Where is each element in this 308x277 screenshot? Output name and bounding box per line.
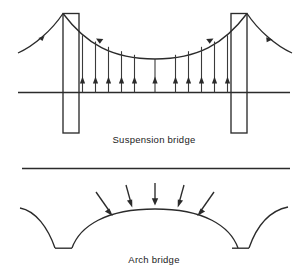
suspension-tower-left (63, 14, 79, 134)
arch-bridge-caption: Arch bridge (0, 254, 308, 265)
main-cable-left-arrowhead (96, 39, 103, 44)
hanger-arrowhead (173, 77, 178, 84)
arch-load-arrow-line (96, 192, 110, 212)
arch-load-arrowhead (152, 198, 158, 205)
suspension-bridge-caption: Suspension bridge (0, 134, 308, 145)
hanger-arrowhead (152, 77, 157, 84)
arch-load-arrowhead (197, 209, 205, 217)
suspension-bridge-panel (18, 14, 292, 134)
arch-load-arrow-line (200, 192, 214, 212)
hanger-arrowhead (225, 77, 230, 84)
hanger-arrowhead (199, 77, 204, 84)
arch-load-arrow-group (96, 183, 214, 216)
arch-main-span (72, 209, 238, 248)
bridge-diagram-figure: Suspension bridge Arch bridge (0, 0, 308, 277)
hanger-arrowhead (119, 77, 124, 84)
right-anchor-cable (247, 14, 292, 54)
hanger-arrowhead (93, 77, 98, 84)
arch-load-arrowhead (127, 200, 132, 208)
main-cable-right-arrowhead (206, 39, 213, 44)
suspension-tower-right (231, 14, 247, 134)
left-anchor-cable (18, 14, 63, 54)
arch-load-arrowhead (105, 209, 113, 217)
arch-left-flank (20, 208, 55, 248)
hanger-arrowhead (106, 77, 111, 84)
arch-bridge-panel (20, 169, 290, 249)
arch-right-flank (249, 207, 288, 248)
hanger-arrowhead (212, 77, 217, 84)
hanger-arrowhead (80, 77, 85, 84)
hanger-arrowhead (132, 77, 137, 84)
arch-load-arrowhead (178, 200, 183, 208)
hanger-arrowhead (186, 77, 191, 84)
main-cable (63, 14, 247, 60)
hanger-group (80, 35, 230, 92)
